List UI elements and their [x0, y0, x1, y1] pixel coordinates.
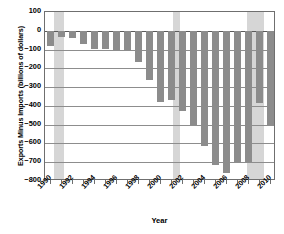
gridline [45, 162, 274, 163]
bar [234, 31, 241, 162]
bar [157, 31, 164, 102]
bar [179, 31, 186, 111]
bar [245, 31, 252, 162]
y-axis-tick-labels: 1000−100−200−300−400−500−600−700−800 [8, 0, 41, 234]
bar [212, 31, 219, 165]
y-tick-label: −100 [8, 45, 41, 53]
bar [190, 31, 197, 125]
y-tick-label: −400 [8, 101, 41, 109]
bar [267, 31, 274, 125]
y-tick-label: −500 [8, 120, 41, 128]
recession-band [54, 12, 64, 179]
y-tick-label: −300 [8, 82, 41, 90]
y-tick-label: 100 [8, 7, 41, 15]
bar [201, 31, 208, 146]
y-tick-label: −200 [8, 63, 41, 71]
bar [135, 31, 142, 62]
bar [102, 31, 109, 49]
bar [91, 31, 98, 49]
x-axis-tick-labels: 1990199219941996199820002002200420062008… [44, 185, 284, 213]
trade-balance-bar-chart: Exports Minus Imports (billions of dolla… [0, 0, 284, 234]
y-tick-label: 0 [8, 26, 41, 34]
bar [124, 31, 131, 51]
y-tick-label: −600 [8, 138, 41, 146]
bar [223, 31, 230, 174]
bar [69, 31, 76, 38]
bar [146, 31, 153, 80]
bar [58, 31, 65, 37]
bar [47, 31, 54, 46]
x-axis-title: Year [44, 216, 275, 225]
bar [80, 31, 87, 44]
bar [168, 31, 175, 100]
bar [256, 31, 263, 103]
plot-area [44, 11, 275, 180]
bar [113, 31, 120, 51]
y-tick-label: −700 [8, 157, 41, 165]
